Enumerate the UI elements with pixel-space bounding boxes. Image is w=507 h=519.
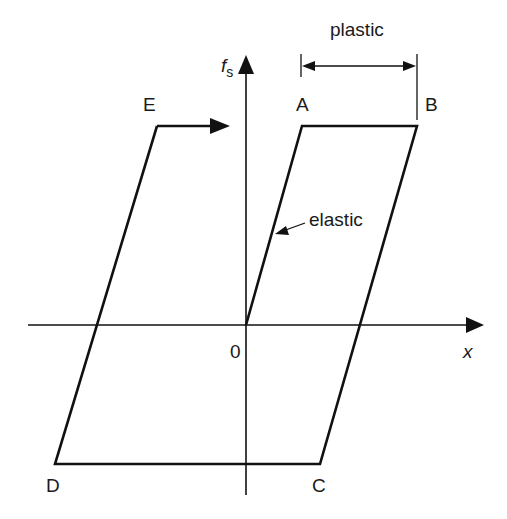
point-label-c: C (312, 476, 326, 495)
dimension-arrow-right-icon (403, 61, 416, 71)
point-label-a: A (296, 95, 309, 114)
x-axis-arrow-icon (466, 317, 484, 333)
y-axis (238, 55, 254, 495)
elastic-label: elastic (309, 210, 363, 229)
point-label-e: E (143, 95, 156, 114)
elastic-leader (275, 223, 305, 235)
y-axis-label: fs (221, 56, 233, 75)
plastic-label: plastic (330, 20, 384, 39)
reloading-arrow-icon (210, 118, 230, 134)
hysteresis-diagram (0, 0, 507, 519)
y-axis-label-subscript: s (226, 64, 233, 80)
dimension-arrow-left-icon (302, 61, 315, 71)
plastic-dimension (301, 54, 417, 120)
point-label-b: B (425, 95, 438, 114)
y-axis-arrow-icon (238, 55, 254, 74)
elastic-arrow-icon (275, 226, 289, 235)
x-axis-label: x (463, 342, 473, 361)
point-label-d: D (46, 476, 60, 495)
hysteresis-loop (55, 118, 417, 464)
loop-path (55, 126, 417, 464)
origin-label: 0 (230, 342, 241, 361)
